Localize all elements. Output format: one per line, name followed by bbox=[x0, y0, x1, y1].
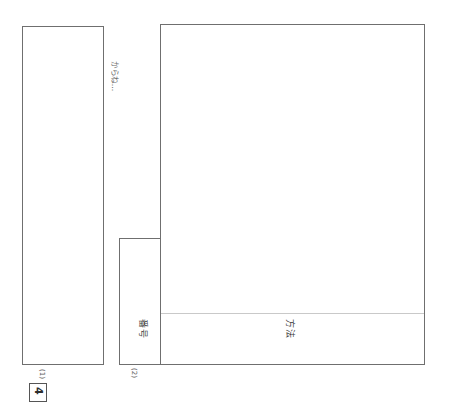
item-marker-2: (2) bbox=[130, 368, 137, 378]
answer-box-2-number-column[interactable] bbox=[119, 238, 164, 365]
worksheet-page: からね… 番号 方法 (1) (2) 4 bbox=[0, 0, 452, 418]
column-label-bango: 番号 bbox=[138, 319, 147, 339]
question-number-box: 4 bbox=[29, 383, 47, 402]
question-number-text: 4 bbox=[33, 387, 44, 395]
inner-divider-rule bbox=[161, 313, 424, 314]
column-label-hoho: 方法 bbox=[285, 319, 294, 339]
item-marker-1: (1) bbox=[38, 369, 45, 379]
answer-box-1[interactable]: からね… bbox=[22, 26, 104, 365]
kana-note-text: からね… bbox=[111, 61, 119, 92]
